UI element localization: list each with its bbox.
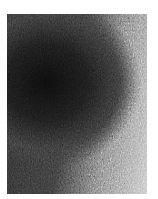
grain-noise-fine xyxy=(7,14,147,194)
grayscale-texture-image xyxy=(7,14,147,194)
